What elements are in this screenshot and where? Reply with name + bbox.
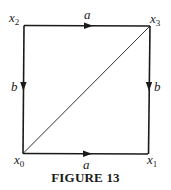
arrow-down-icon [20, 82, 26, 91]
edge-label-left: b [11, 80, 18, 93]
figure-caption: FIGURE 13 [0, 170, 171, 186]
arrow-down-icon [146, 82, 152, 91]
vertex-subscript: 2 [15, 17, 20, 27]
edge-label-top: a [84, 8, 91, 21]
vertex-label-x2: x2 [9, 11, 19, 24]
vertex-label-x1: x1 [147, 153, 157, 166]
vertex-subscript: 0 [20, 159, 25, 169]
vertex-subscript: 3 [156, 18, 161, 28]
arrow-right-icon [84, 23, 93, 30]
edge-diagonal [23, 26, 150, 154]
vertex-subscript: 1 [153, 159, 158, 169]
edge-label-right: b [154, 80, 161, 93]
vertex-label-x3: x3 [150, 12, 160, 25]
vertex-label-x0: x0 [14, 153, 24, 166]
